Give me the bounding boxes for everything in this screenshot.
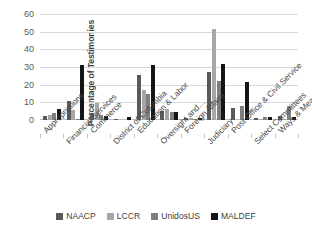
y-axis-tick-label: 0 xyxy=(10,116,34,125)
x-axis-tick xyxy=(87,134,88,138)
x-axis-tick xyxy=(181,134,182,138)
y-axis-tick-label: 60 xyxy=(10,10,34,19)
legend-item[interactable]: LCCR xyxy=(107,212,140,221)
x-axis-tick xyxy=(275,134,276,138)
legend-item[interactable]: NAACP xyxy=(56,212,96,221)
bar-group xyxy=(228,14,251,120)
legend-swatch-icon xyxy=(56,213,63,220)
legend-label: NAACP xyxy=(66,212,96,221)
bar xyxy=(170,112,174,120)
legend-swatch-icon xyxy=(107,213,114,220)
y-axis-tick-label: 40 xyxy=(10,45,34,54)
bar xyxy=(76,119,80,120)
x-axis-tick xyxy=(40,134,41,138)
bar-chart: Percentage of Testimonies 0102030405060 … xyxy=(0,0,312,239)
x-axis-label: Judiciary xyxy=(205,116,235,146)
legend-label: LCCR xyxy=(117,212,140,221)
chart-legend: NAACPLCCRUnidosUSMALDEF xyxy=(0,212,312,221)
bar xyxy=(71,110,75,120)
x-axis-tick xyxy=(228,134,229,138)
legend-swatch-icon xyxy=(211,213,218,220)
y-axis-tick-label: 10 xyxy=(10,98,34,107)
legend-label: MALDEF xyxy=(221,212,256,221)
legend-item[interactable]: UnidosUS xyxy=(151,212,200,221)
legend-label: UnidosUS xyxy=(161,212,200,221)
x-axis-tick xyxy=(134,134,135,138)
bar xyxy=(114,119,118,120)
bar-group xyxy=(40,14,63,120)
x-axis-tick xyxy=(298,134,299,138)
bar xyxy=(263,117,267,120)
legend-item[interactable]: MALDEF xyxy=(211,212,256,221)
y-axis-tick-label: 50 xyxy=(10,27,34,36)
legend-swatch-icon xyxy=(151,213,158,220)
y-axis-tick-label: 30 xyxy=(10,63,34,72)
y-axis-tick-label: 20 xyxy=(10,80,34,89)
bar xyxy=(259,119,263,120)
bar xyxy=(254,118,258,120)
bar xyxy=(43,116,47,120)
